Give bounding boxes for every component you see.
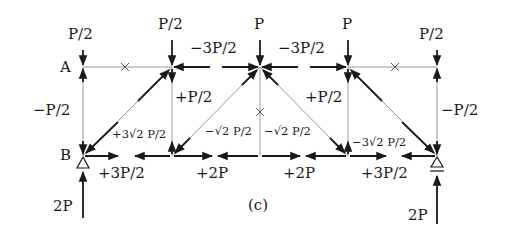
node-label-B: B bbox=[60, 148, 71, 163]
load-label-2: P/2 bbox=[158, 17, 183, 32]
load-label-4: P bbox=[342, 17, 352, 32]
figure-label: (c) bbox=[248, 198, 268, 213]
roller-support-right bbox=[431, 157, 443, 167]
load-label-3: P bbox=[254, 17, 264, 32]
force-vert-left-inner: +P/2 bbox=[175, 90, 212, 105]
load-label-5: P/2 bbox=[419, 27, 444, 42]
reaction-label-left: 2P bbox=[53, 199, 73, 214]
force-top-left: −3P/2 bbox=[190, 41, 237, 56]
load-label-A: P/2 bbox=[68, 27, 93, 42]
force-vert-right-end: −P/2 bbox=[441, 103, 478, 118]
applied-loads bbox=[83, 40, 437, 65]
force-bottom-3: +2P bbox=[283, 166, 315, 181]
force-bottom-1: +3P/2 bbox=[98, 166, 145, 181]
force-top-right: −3P/2 bbox=[278, 41, 325, 56]
force-vert-right-inner: +P/2 bbox=[305, 90, 342, 105]
force-diag-right-end: −3√2 P/2 bbox=[352, 137, 406, 149]
pin-support-left bbox=[77, 157, 89, 168]
force-vert-left-end: −P/2 bbox=[33, 103, 70, 118]
force-bottom-4: +3P/2 bbox=[361, 166, 408, 181]
force-bottom-2: +2P bbox=[196, 166, 228, 181]
reaction-label-right: 2P bbox=[408, 208, 428, 223]
node-label-A: A bbox=[60, 60, 71, 75]
force-diag-left-end: +3√2 P/2 bbox=[112, 129, 166, 141]
force-diag-center-right: −√2 P/2 bbox=[264, 126, 311, 138]
force-diag-center-left: −√2 P/2 bbox=[205, 126, 252, 138]
